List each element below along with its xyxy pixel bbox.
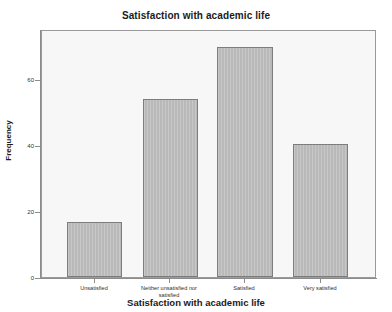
y-axis-title: Frequency <box>4 111 13 171</box>
x-tick-label-satisfied: Satisfied <box>204 285 284 292</box>
x-tick-label-unsatisfied: Unsatisfied <box>54 285 134 292</box>
x-tick-satisfied <box>244 279 245 283</box>
x-tick-label-line: Unsatisfied <box>54 285 134 292</box>
plot-area <box>41 30 376 278</box>
y-tick-label-60: 60 <box>0 77 34 83</box>
x-tick-very-satisfied <box>320 279 321 283</box>
y-tick-20 <box>35 212 40 213</box>
bar-neither[interactable] <box>143 99 198 277</box>
x-tick-label-line: Very satisfied <box>280 285 360 292</box>
plot-inner <box>42 31 375 277</box>
y-tick-0 <box>35 278 40 279</box>
y-tick-40 <box>35 146 40 147</box>
bar-chart: Satisfaction with academic life 0 20 40 … <box>0 0 392 312</box>
bar-very-satisfied[interactable] <box>293 144 348 277</box>
x-tick-label-line: Neither unsatisfied nor <box>126 285 212 292</box>
y-tick-label-20: 20 <box>0 209 34 215</box>
y-tick-60 <box>35 80 40 81</box>
x-tick-label-line: Satisfied <box>204 285 284 292</box>
x-axis-title: Satisfaction with academic life <box>0 297 392 308</box>
x-tick-neither <box>169 279 170 283</box>
x-tick-unsatisfied <box>94 279 95 283</box>
x-axis-line <box>40 278 377 279</box>
chart-title: Satisfaction with academic life <box>0 10 392 21</box>
bar-satisfied[interactable] <box>217 47 273 277</box>
x-tick-label-very-satisfied: Very satisfied <box>280 285 360 292</box>
y-tick-label-0: 0 <box>0 275 34 281</box>
y-axis-line <box>40 30 41 279</box>
bar-unsatisfied[interactable] <box>67 222 122 277</box>
